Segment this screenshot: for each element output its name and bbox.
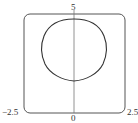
plot-frame: [24, 14, 125, 113]
x-min-label: −2.5: [2, 108, 18, 117]
plot-canvas: [0, 0, 138, 123]
x-zero-label: 0: [71, 114, 76, 123]
x-max-label: 2.5: [127, 108, 138, 117]
y-max-label: 5: [71, 3, 76, 12]
